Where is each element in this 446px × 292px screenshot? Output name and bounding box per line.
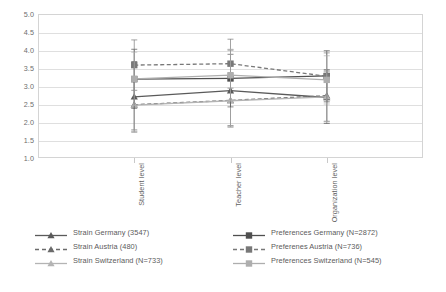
line-chart: 5.04.54.03.53.02.52.01.51.0 Student leve… (0, 0, 446, 292)
x-axis-tick (134, 158, 135, 163)
y-axis-tick-label: 1.0 (4, 154, 34, 163)
series-layer (38, 14, 423, 158)
legend-key-preferences-switzerland (232, 255, 266, 266)
y-axis-tick-label: 5.0 (4, 10, 34, 19)
chart-legend: Strain Germany (3547) Strain Austria (48… (30, 226, 430, 278)
legend-key-strain-germany (34, 227, 68, 238)
x-axis-category-label: Teacher level (234, 163, 243, 207)
legend-key-preferences-austria (232, 241, 266, 252)
x-axis-tick (327, 158, 328, 163)
legend-item-strain-switzerland[interactable]: Strain Switzerland (N=733) (34, 254, 224, 267)
y-axis-tick-label: 4.5 (4, 28, 34, 37)
y-axis-tick-label: 3.0 (4, 82, 34, 91)
legend-label: Strain Switzerland (N=733) (73, 256, 163, 265)
y-axis-tick-label: 2.0 (4, 118, 34, 127)
y-axis-labels: 5.04.54.03.53.02.52.01.51.0 (0, 14, 34, 158)
legend-label: Preferences Germany (N=2872) (271, 228, 378, 237)
x-axis-category-label: Organization level (330, 163, 339, 222)
legend-key-strain-austria (34, 241, 68, 252)
y-axis-tick-label: 3.5 (4, 64, 34, 73)
legend-key-strain-switzerland (34, 255, 68, 266)
legend-item-preferences-switzerland[interactable]: Preferences Switzerland (N=545) (232, 254, 446, 267)
y-axis-tick-label: 1.5 (4, 136, 34, 145)
y-axis-tick-label: 2.5 (4, 100, 34, 109)
legend-label: Preferences Switzerland (N=545) (271, 256, 382, 265)
x-axis-category-label: Student level (137, 163, 146, 206)
legend-item-strain-austria[interactable]: Strain Austria (480) (34, 240, 224, 253)
legend-item-strain-germany[interactable]: Strain Germany (3547) (34, 226, 224, 239)
y-axis-tick-label: 4.0 (4, 46, 34, 55)
legend-item-preferences-austria[interactable]: Preferenes Austria (N=736) (232, 240, 446, 253)
legend-item-preferences-germany[interactable]: Preferences Germany (N=2872) (232, 226, 446, 239)
legend-label: Strain Austria (480) (73, 242, 137, 251)
legend-key-preferences-germany (232, 227, 266, 238)
x-axis-tick (231, 158, 232, 163)
legend-label: Strain Germany (3547) (73, 228, 149, 237)
legend-label: Preferenes Austria (N=736) (271, 242, 362, 251)
